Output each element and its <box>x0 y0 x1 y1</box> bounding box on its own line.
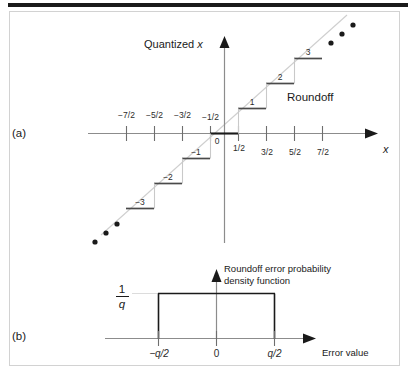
pdf-title-line-1: Roundoff error probability <box>224 263 331 275</box>
step-label-minus-3: −3 <box>129 197 151 207</box>
pdf-tick-label-right: q/2 <box>258 348 291 359</box>
figure-container: (a) Quantized x x Roundoff −7/2 −5/2 −3/… <box>0 0 412 381</box>
ellipsis-dot-upper-1 <box>328 40 333 45</box>
panel-a-y-axis-arrowhead <box>220 36 230 48</box>
pdf-tick-label-center: 0 <box>204 348 229 359</box>
panel-a-x-axis-arrowhead <box>365 129 378 139</box>
tick-label-plus-5-2: 5/2 <box>283 147 307 157</box>
pdf-amplitude-fraction: 1 q <box>112 283 132 310</box>
tick-label-minus-1-2: −1/2 <box>196 112 225 122</box>
tick-label-plus-7-2: 7/2 <box>311 147 335 157</box>
panel-b-x-axis-arrowhead <box>303 334 316 344</box>
tick-label-plus-3-2: 3/2 <box>255 147 279 157</box>
panel-b-tag: (b) <box>12 330 26 342</box>
figure-vector-canvas <box>0 0 412 381</box>
panel-a-y-axis-label: Quantized x <box>144 38 203 50</box>
tick-label-plus-1-2: 1/2 <box>227 143 251 153</box>
panel-a-tag: (a) <box>12 127 26 139</box>
step-label-minus-2: −2 <box>157 172 179 182</box>
panel-a-y-axis-label-text: Quantized <box>144 38 197 50</box>
pdf-title: Roundoff error probability density funct… <box>224 263 331 287</box>
pdf-amplitude-numerator: 1 <box>112 283 132 295</box>
pdf-tick-label-left: −q/2 <box>141 348 177 359</box>
pdf-fraction-bar <box>116 296 129 297</box>
step-label-minus-1: −1 <box>185 147 207 157</box>
pdf-title-line-2: density function <box>224 275 331 287</box>
tick-label-minus-7-2: −7/2 <box>112 110 141 120</box>
tick-label-minus-5-2: −5/2 <box>140 110 169 120</box>
pdf-amplitude-denominator: q <box>112 298 132 310</box>
tick-label-origin: 0 <box>211 136 223 146</box>
step-label-2: 2 <box>269 72 291 82</box>
pdf-x-axis-label: Error value <box>322 347 368 359</box>
panel-a-x-axis-label: x <box>383 143 389 155</box>
ellipsis-dot-lower-3 <box>92 239 97 244</box>
panel-b-y-axis-arrowhead <box>212 269 222 282</box>
roundoff-annotation: Roundoff <box>287 91 333 103</box>
ellipsis-dot-lower-2 <box>103 230 108 235</box>
step-label-1: 1 <box>241 97 263 107</box>
step-label-3: 3 <box>297 47 319 57</box>
ellipsis-dot-upper-3 <box>350 22 355 27</box>
ellipsis-dot-upper-2 <box>339 31 344 36</box>
ellipsis-dots-lower-group <box>92 221 119 244</box>
tick-label-minus-3-2: −3/2 <box>168 110 197 120</box>
ellipsis-dots-upper-group <box>328 22 355 45</box>
panel-a-y-axis-label-variable: x <box>197 38 203 50</box>
ellipsis-dot-lower-1 <box>114 221 119 226</box>
